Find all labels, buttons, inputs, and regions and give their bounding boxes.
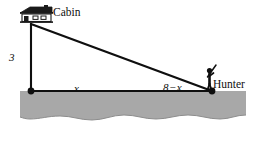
hunter-icon (0, 0, 253, 142)
base-far-variable: x (177, 81, 182, 93)
height-label-3: 3 (9, 52, 15, 63)
geometry-figure: Cabin Hunter 3 x 8−x (0, 0, 253, 142)
base-label-x: x (74, 83, 79, 94)
base-far-value: 8 (163, 81, 169, 93)
minus-operator: − (169, 81, 177, 93)
hunter-leg-right (210, 84, 212, 90)
base-label-8-minus-x: 8−x (163, 82, 182, 93)
cabin-label: Cabin (53, 7, 80, 19)
hunter-label: Hunter (213, 79, 245, 91)
